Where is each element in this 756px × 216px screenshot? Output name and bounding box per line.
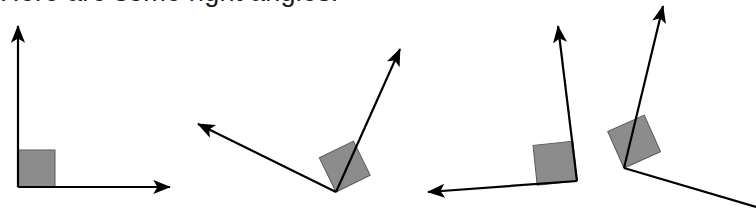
right-angle-2 [198,49,400,192]
right-angle-marker-square-3 [533,141,577,185]
right-angle-marker-square-1 [18,150,55,187]
right-angle-3 [428,26,577,192]
ray-2-upper-left [198,124,336,192]
right-angle-1 [18,26,170,187]
ray-3-left [428,181,577,192]
angles-diagram [0,0,756,216]
right-angles-figure: Here are some right angles. [0,0,756,216]
right-angle-marker-square-2 [319,141,370,192]
ray-4-lower-right [624,168,756,207]
right-angle-4 [608,6,756,207]
